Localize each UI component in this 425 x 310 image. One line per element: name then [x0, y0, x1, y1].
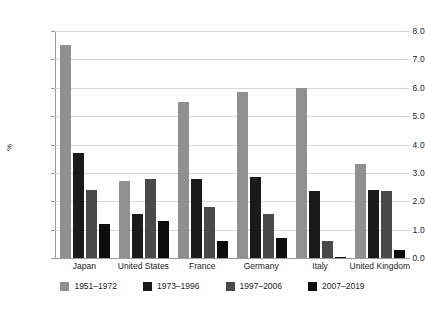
- bar[interactable]: [178, 102, 189, 258]
- bar[interactable]: [335, 257, 346, 258]
- x-category-label: Japan: [55, 261, 114, 271]
- x-category-label: United Kingdom: [350, 261, 410, 271]
- bar[interactable]: [355, 164, 366, 258]
- bar[interactable]: [296, 88, 307, 258]
- bar-group: [173, 31, 232, 258]
- y-axis-title: %: [5, 144, 14, 151]
- bar-group: [292, 31, 351, 258]
- legend-label: 1997–2006: [240, 281, 283, 291]
- bar-groups: [55, 31, 410, 258]
- bar[interactable]: [250, 177, 261, 258]
- bar[interactable]: [368, 190, 379, 258]
- bar[interactable]: [276, 238, 287, 258]
- bar[interactable]: [158, 221, 169, 258]
- x-category-label: France: [173, 261, 232, 271]
- legend-label: 1951–1972: [74, 281, 117, 291]
- chart-legend: 1951–19721973–19961997–20062007–2019: [0, 281, 425, 291]
- bar[interactable]: [309, 191, 320, 258]
- bar-group: [233, 31, 292, 258]
- bar[interactable]: [191, 179, 202, 258]
- bar[interactable]: [145, 179, 156, 258]
- legend-swatch-icon: [308, 282, 317, 291]
- x-axis-category-labels: JapanUnited StatesFranceGermanyItalyUnit…: [55, 261, 410, 271]
- bar[interactable]: [119, 181, 130, 258]
- legend-swatch-icon: [226, 282, 235, 291]
- chart-container: % 0.01.02.03.04.05.06.07.08.0 JapanUnite…: [0, 0, 425, 310]
- legend-swatch-icon: [143, 282, 152, 291]
- legend-label: 1973–1996: [157, 281, 200, 291]
- bar-group: [55, 31, 114, 258]
- bar[interactable]: [86, 190, 97, 258]
- bar[interactable]: [263, 214, 274, 258]
- gridline-0.0: [55, 258, 410, 259]
- bar[interactable]: [322, 241, 333, 258]
- bar[interactable]: [99, 224, 110, 258]
- bar[interactable]: [60, 45, 71, 258]
- bar[interactable]: [237, 92, 248, 258]
- x-category-label: United States: [114, 261, 173, 271]
- legend-item[interactable]: 1951–1972: [60, 281, 117, 291]
- x-category-label: Germany: [232, 261, 291, 271]
- bar[interactable]: [132, 214, 143, 258]
- legend-label: 2007–2019: [322, 281, 365, 291]
- legend-item[interactable]: 1997–2006: [226, 281, 283, 291]
- bar-group: [114, 31, 173, 258]
- bar[interactable]: [73, 153, 84, 258]
- bar-group: [351, 31, 410, 258]
- bar[interactable]: [394, 250, 405, 259]
- x-category-label: Italy: [291, 261, 350, 271]
- bar[interactable]: [381, 191, 392, 258]
- legend-item[interactable]: 2007–2019: [308, 281, 365, 291]
- bar[interactable]: [204, 207, 215, 258]
- bar[interactable]: [217, 241, 228, 258]
- legend-item[interactable]: 1973–1996: [143, 281, 200, 291]
- legend-swatch-icon: [60, 282, 69, 291]
